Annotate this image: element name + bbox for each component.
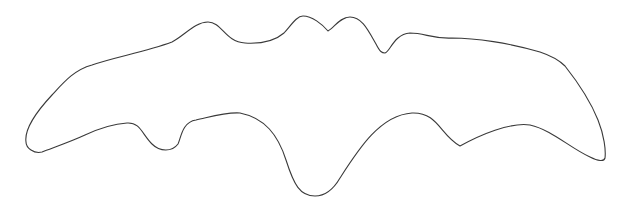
drawing-canvas [0,0,632,210]
bat-outline-drawing [0,0,632,210]
bat-outline-icon [26,16,605,196]
